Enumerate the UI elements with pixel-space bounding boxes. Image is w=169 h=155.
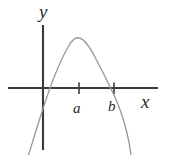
figure-canvas <box>0 0 169 155</box>
parabola-figure: y x a b <box>0 0 169 155</box>
y-axis-label: y <box>39 2 47 21</box>
tick-label-a: a <box>73 101 81 116</box>
tick-label-b: b <box>108 99 116 114</box>
x-axis-label: x <box>141 92 149 111</box>
